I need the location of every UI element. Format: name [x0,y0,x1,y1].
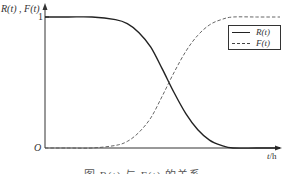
legend: R(t) F(t) [228,25,281,50]
legend-item-r: R(t) [232,27,280,38]
y-axis-label: R(t) , F(t) [1,3,40,14]
origin-label: O [34,142,41,153]
legend-item-f: F(t) [232,38,280,49]
dashed-line-swatch-icon [232,43,250,44]
x-axis-label: t/h [267,151,277,161]
legend-label-r: R(t) [256,27,270,37]
y-axis-arrow-icon [43,3,48,10]
figure-caption: 图 R(t) 与 F(t) 的关系 [0,166,285,174]
solid-line-swatch-icon [232,32,250,33]
x-axis-unit: /h [270,151,277,161]
legend-label-f: F(t) [256,38,270,48]
y-tick-label-1: 1 [38,11,43,22]
